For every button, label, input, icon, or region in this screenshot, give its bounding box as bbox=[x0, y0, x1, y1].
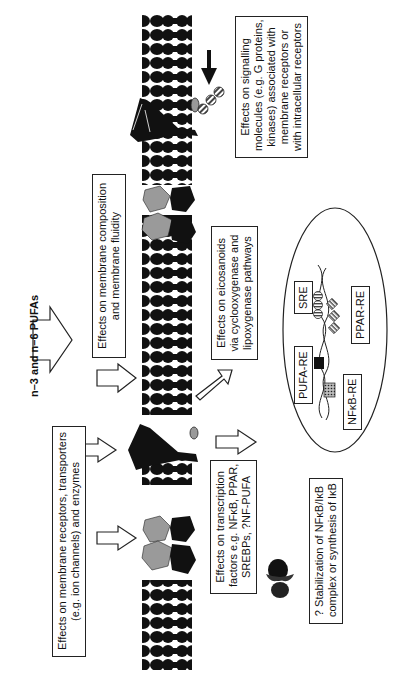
box-line: Effects on membrane receptors, transport… bbox=[56, 433, 69, 650]
membrane-composition-box: Effects on membrane composition and memb… bbox=[92, 174, 126, 358]
transcription-factors-box: Effects on transcription factors e.g. NF… bbox=[210, 460, 257, 594]
box-line: and membrane fluidity bbox=[109, 181, 122, 351]
g-protein-icon bbox=[191, 87, 224, 114]
nfkb-ikb-complex-icon bbox=[266, 559, 294, 598]
box-line: complex or synthesis of IκB bbox=[326, 485, 339, 617]
box-line: lipoxygenase pathways bbox=[241, 233, 254, 353]
diagonal-arrow-icon bbox=[196, 370, 232, 400]
right-arrow-icon bbox=[97, 526, 136, 550]
box-line: ? Stabilization of NFκB/IκB bbox=[313, 485, 326, 617]
box-line: factors e.g. NFκB, PPAR, bbox=[227, 467, 240, 587]
right-arrow-icon bbox=[97, 364, 136, 392]
eicosanoids-box: Effects on eicosanoids via cyclooxygenas… bbox=[211, 226, 258, 360]
nfkb-re-label: NFκB-RE bbox=[343, 374, 362, 430]
down-arrow-icon bbox=[201, 50, 217, 85]
box-line: via cyclooxygenase and bbox=[228, 233, 241, 353]
title-label: n–3 and n–6 PUFAs bbox=[28, 295, 40, 397]
ppar-re-label: PPAR-RE bbox=[351, 286, 370, 344]
nucleus-ellipse bbox=[283, 208, 387, 452]
box-line: Effects on signalling bbox=[239, 23, 252, 151]
box-line: molecules (e.g. G proteins, bbox=[252, 23, 265, 151]
box-line: membrane receptors or bbox=[278, 23, 291, 151]
box-line: Effects on transcription bbox=[214, 467, 227, 587]
box-line: (e.g. ion channels) and enzymes bbox=[69, 433, 82, 650]
membrane-protein-pair-lower bbox=[142, 516, 196, 574]
box-line: with intracellular receptors bbox=[291, 23, 304, 151]
box-line: kinases) associated with bbox=[265, 23, 278, 151]
box-line: Effects on eicosanoids bbox=[215, 233, 228, 353]
sre-label: SRE bbox=[294, 281, 313, 314]
pufa-re-label: PUFA-RE bbox=[294, 346, 313, 404]
right-arrow-icon bbox=[216, 430, 256, 454]
stabilization-box: ? Stabilization of NFκB/IκB complex or s… bbox=[309, 478, 343, 624]
membrane-receptors-box: Effects on membrane receptors, transport… bbox=[52, 426, 86, 657]
signalling-effects-box: Effects on signalling molecules (e.g. G … bbox=[235, 16, 308, 158]
box-line: SREBPs, ?NF-PUFA bbox=[240, 467, 253, 587]
box-line: Effects on membrane composition bbox=[96, 181, 109, 351]
